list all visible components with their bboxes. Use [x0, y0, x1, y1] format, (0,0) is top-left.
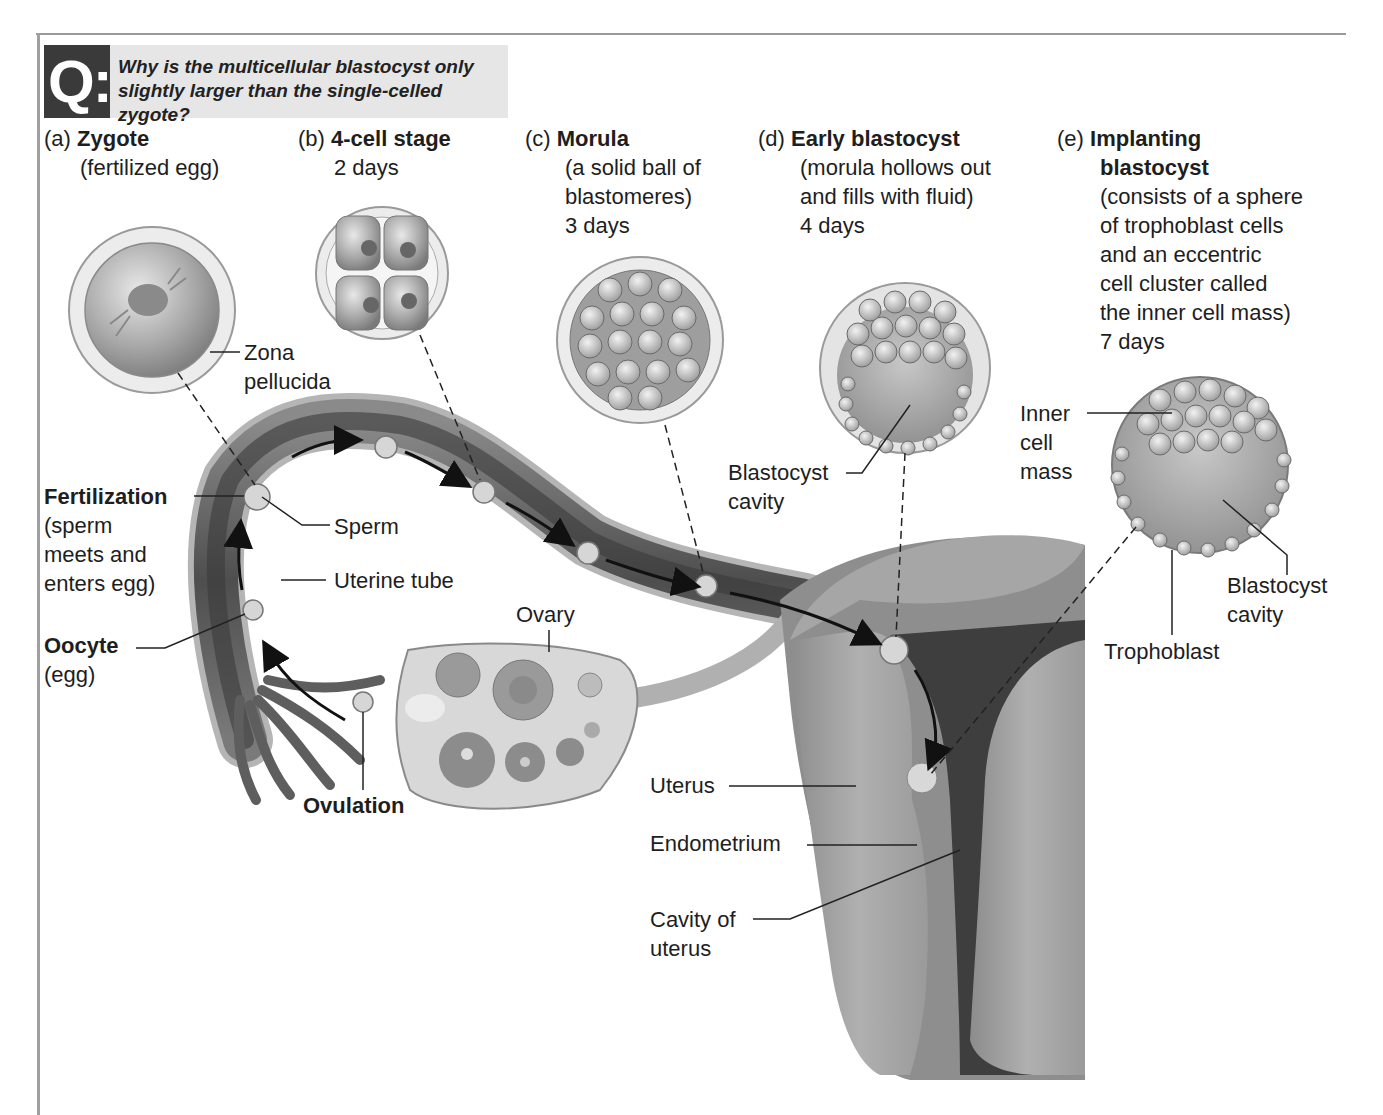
stage-letter: (b): [298, 126, 325, 151]
stage-description: the inner cell mass): [1057, 298, 1303, 327]
label-line: Blastocyst: [1227, 571, 1327, 600]
stage-description: cell cluster called: [1057, 269, 1303, 298]
stage-letter: (d): [758, 126, 785, 151]
label-line: cell: [1020, 428, 1073, 457]
label-line: uterus: [650, 934, 736, 963]
stage-letter: (a): [44, 126, 71, 151]
stage-letter: (c): [525, 126, 551, 151]
implanting-blastocyst-illustration: [1111, 377, 1291, 557]
label-line: pellucida: [244, 367, 331, 396]
label-line: cavity: [728, 487, 828, 516]
stage-title: Zygote: [77, 126, 149, 151]
stage-title: Morula: [557, 126, 629, 151]
stage-title: Early blastocyst: [791, 126, 960, 151]
label-zona-pellucida: Zona pellucida: [244, 338, 331, 396]
label-uterus: Uterus: [650, 771, 715, 800]
label-line: Cavity of: [650, 905, 736, 934]
stage-description: (a solid ball of: [525, 153, 701, 182]
stage-b-four-cell: (b) 4-cell stage 2 days: [298, 124, 451, 182]
stage-description: and an eccentric: [1057, 240, 1303, 269]
label-line: Blastocyst: [728, 458, 828, 487]
label-blastocyst-cavity-early: Blastocyst cavity: [728, 458, 828, 516]
label-line: Inner: [1020, 399, 1073, 428]
early-blastocyst-illustration: [820, 283, 990, 455]
label-endometrium: Endometrium: [650, 829, 781, 858]
stage-description: 3 days: [525, 211, 701, 240]
stage-description: 7 days: [1057, 327, 1303, 356]
label-line: (sperm: [44, 511, 167, 540]
zygote-illustration: [69, 227, 235, 393]
stage-c-morula: (c) Morula (a solid ball of blastomeres)…: [525, 124, 701, 240]
stage-description: (morula hollows out: [758, 153, 991, 182]
ovarian-ligament: [620, 620, 790, 700]
label-cavity-of-uterus: Cavity of uterus: [650, 905, 736, 963]
ovary-illustration: [397, 643, 638, 808]
stage-description: and fills with fluid): [758, 182, 991, 211]
label-blastocyst-cavity-implanting: Blastocyst cavity: [1227, 571, 1327, 629]
stage-description: (consists of a sphere: [1057, 182, 1303, 211]
label-line: meets and: [44, 540, 167, 569]
label-title: Oocyte: [44, 631, 119, 660]
label-line: Zona: [244, 338, 331, 367]
stage-title-continued: blastocyst: [1057, 153, 1303, 182]
stage-title: 4-cell stage: [331, 126, 451, 151]
label-line: (egg): [44, 660, 119, 689]
label-ovulation: Ovulation: [303, 791, 404, 820]
label-ovary: Ovary: [516, 600, 575, 629]
uterus-illustration: [780, 535, 1085, 1080]
label-trophoblast: Trophoblast: [1104, 637, 1219, 666]
label-title: Fertilization: [44, 482, 167, 511]
stage-description: 4 days: [758, 211, 991, 240]
label-fertilization: Fertilization (sperm meets and enters eg…: [44, 482, 167, 598]
label-inner-cell-mass: Inner cell mass: [1020, 399, 1073, 486]
label-line: enters egg): [44, 569, 167, 598]
stage-letter: (e): [1057, 126, 1084, 151]
stage-d-early-blastocyst: (d) Early blastocyst (morula hollows out…: [758, 124, 991, 240]
label-oocyte: Oocyte (egg): [44, 631, 119, 689]
label-uterine-tube: Uterine tube: [334, 566, 454, 595]
stage-title: Implanting: [1090, 126, 1201, 151]
stage-description: (fertilized egg): [44, 153, 219, 182]
stage-description: blastomeres): [525, 182, 701, 211]
stage-a-zygote: (a) Zygote (fertilized egg): [44, 124, 219, 182]
stage-description: of trophoblast cells: [1057, 211, 1303, 240]
label-line: mass: [1020, 457, 1073, 486]
stage-e-implanting-blastocyst: (e) Implanting blastocyst (consists of a…: [1057, 124, 1303, 356]
four-cell-illustration: [316, 207, 448, 339]
morula-illustration: [557, 257, 723, 423]
label-line: cavity: [1227, 600, 1327, 629]
stage-description: 2 days: [298, 153, 451, 182]
label-sperm: Sperm: [334, 512, 399, 541]
